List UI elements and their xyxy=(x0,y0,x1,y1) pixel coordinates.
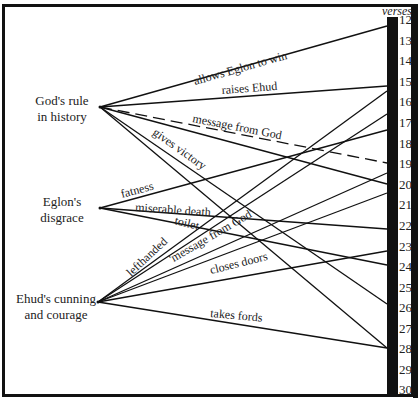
verse-number: 14 xyxy=(399,54,412,68)
verse-number: 26 xyxy=(399,301,412,315)
verse-number: 30 xyxy=(399,383,412,397)
category-eglons-disgrace-line1: Eglon's xyxy=(22,194,102,210)
verse-number: 12 xyxy=(399,13,412,27)
verse-number: 19 xyxy=(399,157,412,171)
category-ehuds-cunning-line2: and courage xyxy=(10,307,102,323)
verse-number: 18 xyxy=(399,137,412,151)
label-message-from-god: message from God xyxy=(191,111,283,142)
verse-number: 29 xyxy=(399,363,412,377)
verse-number: 23 xyxy=(399,240,412,254)
verse-number: 20 xyxy=(399,178,412,192)
verse-number: 21 xyxy=(399,198,412,212)
verse-bar xyxy=(387,17,398,395)
verse-number: 25 xyxy=(399,281,412,295)
label-miserable-death: miserable death xyxy=(135,200,211,219)
label-gives-victory: gives victory xyxy=(150,125,209,173)
label-closes-doors: closes doors xyxy=(208,249,269,277)
label-takes-fords: takes fords xyxy=(210,306,264,325)
category-ehuds-cunning: Ehud's cunning and courage xyxy=(10,291,102,323)
category-gods-rule-line1: God's rule xyxy=(22,93,102,109)
verse-number: 17 xyxy=(399,116,412,130)
category-eglons-disgrace-line2: disgrace xyxy=(22,210,102,226)
line-gods-rule-v20 xyxy=(100,107,387,184)
verse-number: 24 xyxy=(399,260,412,274)
category-gods-rule: God's rule in history xyxy=(22,93,102,125)
category-ehuds-cunning-line1: Ehud's cunning xyxy=(10,291,102,307)
verse-number: 27 xyxy=(399,322,412,336)
verse-number: 13 xyxy=(399,34,412,48)
verse-number: 28 xyxy=(399,342,412,356)
verse-number: 22 xyxy=(399,219,412,233)
verse-number: 15 xyxy=(399,75,412,89)
verse-number: 16 xyxy=(399,95,412,109)
category-eglons-disgrace: Eglon's disgrace xyxy=(22,194,102,226)
category-gods-rule-line2: in history xyxy=(22,109,102,125)
